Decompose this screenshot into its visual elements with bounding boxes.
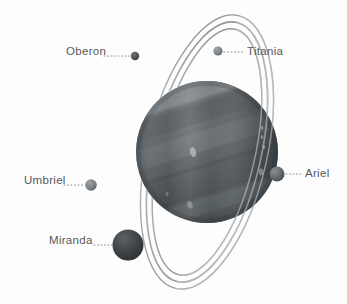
moon-miranda[interactable] [113, 230, 144, 261]
moon-label-ariel: Ariel [305, 168, 330, 180]
surface-spot [165, 192, 168, 197]
surface-spot [261, 135, 264, 139]
moon-titania[interactable] [213, 46, 222, 55]
uranus-moons-diagram: Oberon Titania Ariel Umbriel Miranda [0, 0, 347, 304]
moon-label-umbriel: Umbriel [24, 175, 66, 187]
diagram-canvas [0, 0, 347, 304]
surface-spot [261, 126, 264, 130]
moon-oberon[interactable] [131, 52, 139, 60]
planet-uranus [100, 46, 320, 255]
moon-label-titania: Titania [247, 46, 283, 58]
moon-label-oberon: Oberon [66, 46, 106, 58]
moon-label-miranda: Miranda [49, 235, 93, 247]
moon-ariel[interactable] [270, 167, 285, 182]
surface-spot [259, 169, 263, 176]
planet-surface-detail [100, 46, 320, 255]
moon-umbriel[interactable] [85, 179, 97, 191]
